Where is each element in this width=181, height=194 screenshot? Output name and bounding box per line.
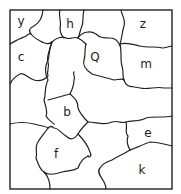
region-borders	[0, 0, 181, 194]
border-m-south	[124, 80, 172, 89]
border-f	[36, 128, 88, 174]
region-label-e: e	[144, 127, 151, 139]
region-label-c: c	[18, 51, 25, 63]
border-center-west	[44, 42, 54, 124]
border-k-west	[99, 150, 130, 189]
border-y-c-west	[10, 34, 31, 44]
border-b-north	[70, 72, 75, 94]
region-label-y: y	[17, 15, 24, 27]
border-e-west	[126, 122, 130, 150]
border-Q-m	[120, 10, 125, 80]
region-label-f: f	[54, 148, 58, 160]
region-map: y h z c Q m b e f k	[0, 0, 181, 194]
region-label-z: z	[140, 18, 146, 30]
border-e-south	[130, 142, 172, 150]
border-west-mid	[10, 123, 48, 129]
border-f-east	[78, 134, 91, 157]
border-y-c	[30, 10, 43, 42]
region-label-h: h	[66, 18, 74, 30]
region-label-m: m	[140, 58, 152, 70]
border-middle-east	[88, 116, 172, 124]
border-c-south	[10, 42, 52, 84]
border-h-south	[52, 37, 86, 44]
border-h-west	[59, 10, 64, 38]
region-label-b: b	[63, 106, 71, 118]
region-label-k: k	[139, 164, 146, 176]
border-z-m	[120, 43, 172, 48]
border-Q-north	[78, 32, 120, 46]
region-label-Q: Q	[90, 51, 99, 63]
